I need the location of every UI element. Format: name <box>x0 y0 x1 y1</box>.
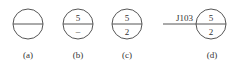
caption-d: (d) <box>207 50 218 60</box>
top-number-c: 5 <box>125 13 130 23</box>
index-symbol-figure: (a) 5 – (b) 5 2 (c) J103 5 2 (d) <box>0 0 234 76</box>
caption-a: (a) <box>23 50 33 60</box>
top-number-b: 5 <box>76 13 81 23</box>
bottom-number-b: – <box>75 26 81 36</box>
symbol-d: J103 5 2 (d) <box>163 9 226 60</box>
bottom-number-c: 2 <box>125 27 130 37</box>
symbol-b: 5 – (b) <box>63 9 93 60</box>
leader-label-d: J103 <box>176 13 194 23</box>
top-number-d: 5 <box>209 13 214 23</box>
bottom-number-d: 2 <box>209 27 214 37</box>
symbol-c: 5 2 (c) <box>112 9 142 60</box>
symbol-a: (a) <box>13 9 43 60</box>
caption-c: (c) <box>122 50 132 60</box>
caption-b: (b) <box>73 50 84 60</box>
